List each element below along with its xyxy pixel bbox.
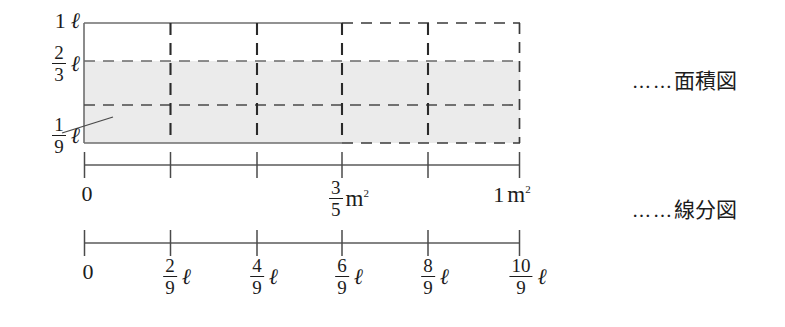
- annotation-line-dots: ……: [632, 199, 674, 221]
- number-line-label-eight-ninths-unit: ℓ: [440, 266, 449, 288]
- unit-metre-text: m: [346, 186, 364, 211]
- y-label-two-thirds-unit: ℓ: [71, 53, 80, 75]
- number-line-label-six-ninths-unit: ℓ: [354, 266, 363, 288]
- fraction-ten-ninths-numerator: 10: [509, 256, 532, 277]
- number-line-label-ten-ninths: 10 9 ℓ: [509, 256, 546, 298]
- number-line-label-zero-value: 0: [83, 261, 94, 283]
- shaded-area-region: [84, 61, 520, 143]
- math-figure: 1 ℓ 2 3 ℓ 1 9 ℓ 0 3 5 m2 1 m2 0 2: [0, 0, 785, 327]
- annotation-line-text: 線分図: [674, 198, 737, 222]
- fraction-two-ninths: 2 9: [163, 256, 177, 298]
- area-axis-label-three-fifths-unit: m2: [346, 187, 369, 210]
- fraction-four-ninths: 4 9: [250, 256, 264, 298]
- number-line-label-eight-ninths: 8 9 ℓ: [421, 256, 449, 298]
- annotation-area-dots: ……: [632, 70, 674, 92]
- fraction-six-ninths: 6 9: [335, 256, 349, 298]
- fraction-one-ninth-denominator: 9: [52, 136, 66, 156]
- fraction-three-fifths-numerator: 3: [329, 178, 343, 199]
- number-line-label-two-ninths-unit: ℓ: [182, 266, 191, 288]
- fraction-eight-ninths: 8 9: [421, 256, 435, 298]
- fraction-one-ninth: 1 9: [52, 115, 66, 157]
- area-axis-label-zero-value: 0: [82, 183, 93, 205]
- annotation-area-text: 面積図: [674, 69, 737, 93]
- number-line-label-four-ninths: 4 9 ℓ: [250, 256, 278, 298]
- area-axis-label-one-value: 1: [493, 184, 504, 206]
- fraction-eight-ninths-numerator: 8: [421, 256, 435, 277]
- y-label-one-ninth-litre: 1 9 ℓ: [52, 115, 80, 157]
- y-label-one-litre-unit: ℓ: [71, 10, 80, 32]
- area-axis-label-three-fifths: 3 5 m2: [329, 178, 369, 220]
- number-line-label-ten-ninths-unit: ℓ: [537, 266, 546, 288]
- unit-metre-exponent: 2: [363, 188, 369, 200]
- number-line-label-four-ninths-unit: ℓ: [269, 266, 278, 288]
- y-label-one-litre-value: 1: [55, 10, 66, 32]
- unit-metre-exponent-2: 2: [525, 183, 531, 195]
- area-axis-label-one-unit: m2: [507, 183, 530, 206]
- y-label-one-ninth-unit: ℓ: [71, 125, 80, 147]
- number-line-label-six-ninths: 6 9 ℓ: [335, 256, 363, 298]
- fraction-two-thirds-numerator: 2: [52, 43, 66, 64]
- fraction-ten-ninths-denominator: 9: [514, 277, 528, 297]
- annotation-area-diagram: ……面積図: [632, 64, 737, 94]
- fraction-six-ninths-denominator: 9: [335, 277, 349, 297]
- fraction-two-ninths-numerator: 2: [163, 256, 177, 277]
- unit-metre-text-2: m: [507, 182, 525, 207]
- area-axis-label-one-square-metre: 1 m2: [493, 183, 530, 206]
- area-axis-label-zero: 0: [82, 183, 93, 205]
- fraction-one-ninth-numerator: 1: [52, 115, 66, 136]
- y-label-two-thirds-litre: 2 3 ℓ: [52, 43, 80, 85]
- fraction-two-thirds-denominator: 3: [52, 64, 66, 84]
- fraction-four-ninths-denominator: 9: [250, 277, 264, 297]
- fraction-ten-ninths: 10 9: [509, 256, 532, 298]
- fraction-three-fifths: 3 5: [329, 178, 343, 220]
- annotation-line-diagram: ……線分図: [632, 193, 737, 223]
- fraction-two-thirds: 2 3: [52, 43, 66, 85]
- fraction-four-ninths-numerator: 4: [250, 256, 264, 277]
- fraction-eight-ninths-denominator: 9: [421, 277, 435, 297]
- number-line-label-two-ninths: 2 9 ℓ: [163, 256, 191, 298]
- y-label-one-litre: 1 ℓ: [55, 10, 80, 32]
- number-line-label-zero: 0: [83, 261, 94, 283]
- fraction-two-ninths-denominator: 9: [163, 277, 177, 297]
- fraction-six-ninths-numerator: 6: [335, 256, 349, 277]
- fraction-three-fifths-denominator: 5: [329, 199, 343, 219]
